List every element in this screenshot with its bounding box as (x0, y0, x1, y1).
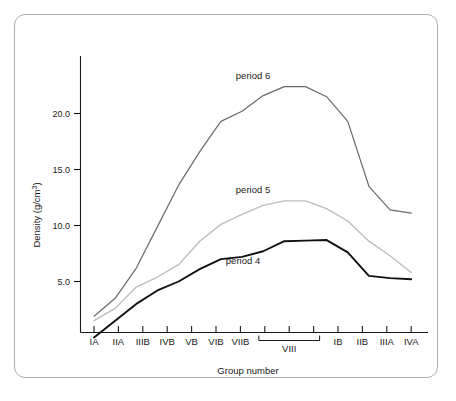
series-label-period-5: period 5 (236, 184, 270, 195)
x-label-VB: VB (185, 336, 198, 347)
viii-bracket-label: VIII (282, 343, 296, 354)
y-axis-title: Density (g/cm3) (31, 182, 43, 247)
x-label-IVA: IVA (404, 336, 419, 347)
y-axis-title-main: Density (g/cm (31, 189, 42, 247)
viii-bracket (259, 336, 320, 341)
x-label-IIIA: IIIA (380, 336, 395, 347)
y-axis: 20.0 15.0 10.0 5.0 Density (g/cm3) (31, 56, 81, 333)
x-label-IB: IB (334, 336, 343, 347)
x-axis-ticks (94, 326, 411, 333)
x-label-IIIB: IIIB (136, 336, 150, 347)
x-label-IIA: IIA (113, 336, 125, 347)
x-label-IVB: IVB (160, 336, 175, 347)
density-vs-group-chart: 20.0 15.0 10.0 5.0 Density (g/cm3) IAIIA… (0, 0, 456, 401)
x-label-VIIB: VIIB (231, 336, 249, 347)
x-label-VIB: VIB (208, 336, 223, 347)
y-tick-label-20: 20.0 (52, 109, 70, 119)
viii-bracket-group: VIII (259, 336, 320, 354)
x-label-IIB: IIB (357, 336, 369, 347)
curve-period-6 (94, 87, 411, 317)
series-label-period-6: period 6 (236, 70, 270, 81)
x-axis-category-labels: IAIIAIIIBIVBVBVIBVIIBIBIIBIIIAIVA (90, 336, 420, 347)
y-tick-label-5: 5.0 (57, 277, 70, 287)
svg-text:Density (g/cm3): Density (g/cm3) (31, 182, 43, 247)
y-tick-label-15: 15.0 (52, 165, 70, 175)
y-tick-label-10: 10.0 (52, 221, 70, 231)
series-curves (94, 87, 411, 338)
series-label-period-4: period 4 (226, 255, 260, 266)
y-axis-title-tail: ) (31, 182, 42, 185)
x-axis-title: Group number (217, 365, 278, 376)
